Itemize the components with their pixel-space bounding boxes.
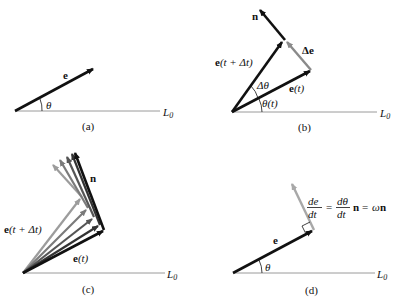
label-n: n	[90, 172, 96, 184]
label-l0: L0	[376, 268, 387, 282]
angle-arc-theta	[259, 260, 262, 273]
eq-n-2: n	[380, 201, 386, 213]
eq-n: n	[353, 201, 359, 213]
eq-lhs-denominator: dt	[308, 208, 318, 220]
derivative-vector-de-dt	[292, 184, 314, 230]
panel-a: e θ L0 (a)	[15, 69, 173, 133]
unit-vector-e	[15, 69, 93, 111]
eq-equals-1: =	[326, 201, 332, 213]
panel-b: n Δe e(t + Δt) Δθ e(t) θ(t) L0 (b)	[215, 10, 390, 134]
label-e-t: e(t)	[289, 82, 305, 95]
label-theta-t: θ(t)	[262, 97, 278, 110]
label-delta-e: Δe	[302, 44, 314, 56]
label-e: e	[273, 234, 278, 246]
fan-vector-e-t	[23, 231, 103, 273]
angle-arc-theta	[40, 99, 42, 111]
panel-c: n e(t + Δt) e(t) L0 (c)	[4, 153, 177, 296]
label-theta: θ	[265, 261, 271, 273]
vector-n	[260, 10, 285, 40]
label-e: e	[63, 69, 68, 81]
derivative-equation: de dt = dθ dt n = ω n	[307, 195, 386, 220]
caption-c: (c)	[82, 283, 95, 296]
caption-d: (d)	[305, 284, 318, 297]
caption-b: (b)	[298, 121, 311, 134]
eq-mid-denominator: dt	[337, 208, 347, 220]
label-e-t: e(t)	[73, 252, 89, 265]
eq-mid-numerator: dθ	[337, 195, 349, 207]
label-l0: L0	[162, 106, 173, 120]
eq-lhs-numerator: de	[308, 195, 319, 207]
label-e-t-plus-dt: e(t + Δt)	[215, 56, 253, 69]
label-l0: L0	[379, 107, 390, 121]
label-e-t-plus-dt: e(t + Δt)	[4, 223, 42, 236]
caption-a: (a)	[82, 120, 95, 133]
panel-d: e θ L0 (d) de dt = dθ dt n = ω n	[233, 184, 387, 297]
vector-derivative-diagram: e θ L0 (a) n Δe e(t + Δt) Δθ e(t) θ(t) L…	[0, 0, 399, 303]
eq-omega: ω	[372, 201, 380, 213]
label-delta-theta: Δθ	[256, 79, 269, 91]
label-theta: θ	[46, 99, 52, 111]
eq-equals-2: =	[362, 201, 368, 213]
label-n: n	[252, 10, 258, 22]
label-l0: L0	[166, 268, 177, 282]
